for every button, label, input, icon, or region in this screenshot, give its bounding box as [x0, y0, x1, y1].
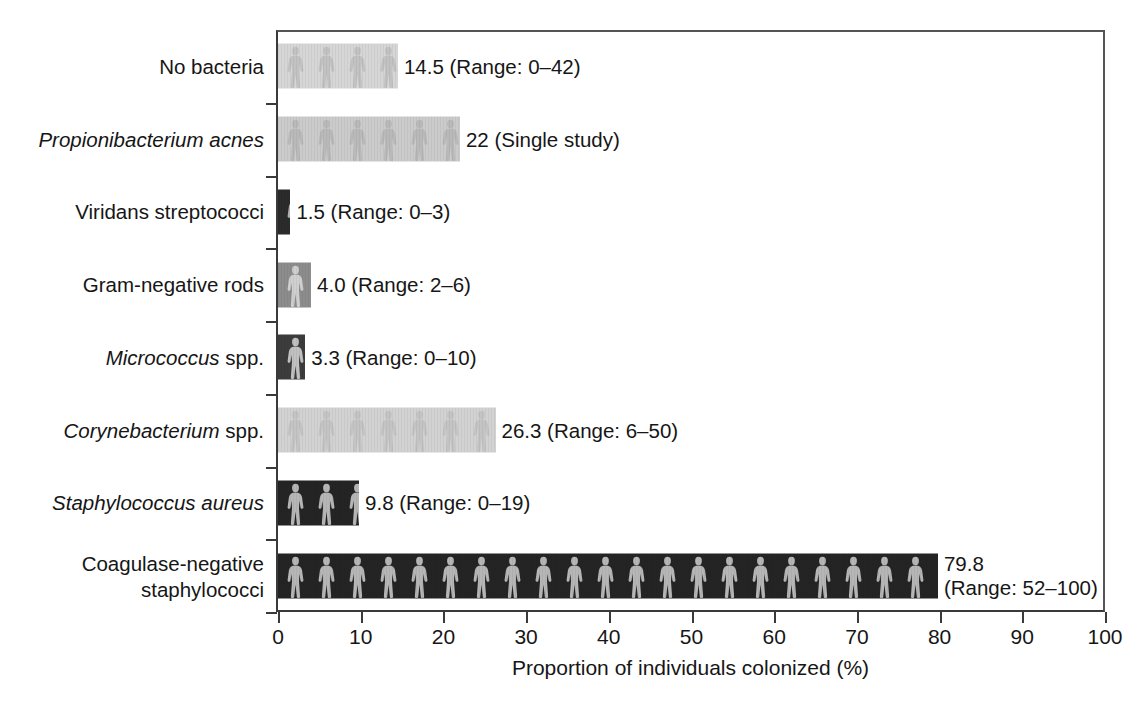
bar-and-label: 26.3 (Range: 6–50): [278, 408, 678, 453]
y-axis-tick: [266, 321, 277, 323]
x-axis-tick: [526, 612, 528, 623]
x-axis-tick-label: 50: [652, 625, 732, 649]
bar-row: Viridans streptococci1.5 (Range: 0–3): [0, 176, 1148, 249]
bar[interactable]: [278, 480, 359, 525]
bar-and-label: 22 (Single study): [278, 117, 620, 162]
bar-value-label: 14.5 (Range: 0–42): [404, 54, 581, 78]
x-axis-tick-label: 70: [817, 625, 897, 649]
bar[interactable]: [278, 408, 496, 453]
bar-texture: [278, 262, 311, 307]
bar-and-label: 79.8 (Range: 52–100): [278, 553, 1098, 598]
bar-row: No bacteria14.5 (Range: 0–42): [0, 30, 1148, 103]
x-axis-tick-label: 90: [982, 625, 1062, 649]
category-label: Corynebacterium spp.: [0, 418, 264, 443]
x-axis-tick-label: 10: [321, 625, 401, 649]
x-axis-tick-label: 30: [486, 625, 566, 649]
bar-and-label: 3.3 (Range: 0–10): [278, 335, 477, 380]
bar-texture: [278, 553, 938, 598]
bar-texture: [278, 335, 305, 380]
bar-value-label: 1.5 (Range: 0–3): [296, 200, 450, 224]
x-axis-tick: [361, 612, 363, 623]
x-axis-tick-label: 40: [569, 625, 649, 649]
bar-value-label: 22 (Single study): [466, 127, 620, 151]
category-label: Gram-negative rods: [0, 272, 264, 297]
bar-texture: [278, 44, 398, 89]
bar-value-label: 4.0 (Range: 2–6): [317, 273, 471, 297]
x-axis-tick: [1022, 612, 1024, 623]
bar[interactable]: [278, 189, 290, 234]
bar[interactable]: [278, 553, 938, 598]
y-axis-tick: [266, 467, 277, 469]
y-axis-tick: [266, 248, 277, 250]
bar-row: Staphylococcus aureus9.8 (Range: 0–19): [0, 467, 1148, 540]
bar-chart: No bacteria14.5 (Range: 0–42)Propionibac…: [0, 0, 1148, 702]
y-axis-tick: [266, 176, 277, 178]
x-axis-tick: [609, 612, 611, 623]
bar-row: Corynebacterium spp.26.3 (Range: 6–50): [0, 394, 1148, 467]
category-label: Staphylococcus aureus: [0, 490, 264, 515]
y-axis-tick: [266, 612, 277, 614]
bar-and-label: 1.5 (Range: 0–3): [278, 189, 450, 234]
bar-row: Micrococcus spp.3.3 (Range: 0–10): [0, 321, 1148, 394]
bar-value-label: 79.8 (Range: 52–100): [944, 552, 1098, 600]
bar-value-label: 3.3 (Range: 0–10): [311, 345, 476, 369]
y-axis-tick: [266, 394, 277, 396]
bar-and-label: 9.8 (Range: 0–19): [278, 480, 530, 525]
bar[interactable]: [278, 335, 305, 380]
x-axis-tick: [774, 612, 776, 623]
x-axis-tick-label: 20: [403, 625, 483, 649]
bar-texture: [278, 189, 290, 234]
bar-texture: [278, 480, 359, 525]
bar-and-label: 14.5 (Range: 0–42): [278, 44, 581, 89]
x-axis-tick: [1105, 612, 1107, 623]
x-axis-tick: [857, 612, 859, 623]
x-axis-tick-label: 100: [1065, 625, 1145, 649]
category-label: No bacteria: [0, 54, 264, 79]
x-axis-tick: [940, 612, 942, 623]
bar-row: Propionibacterium acnes22 (Single study): [0, 103, 1148, 176]
category-label: Coagulase-negative staphylococci: [0, 551, 264, 603]
bar-value-label: 26.3 (Range: 6–50): [502, 418, 679, 442]
x-axis-tick-label: 60: [734, 625, 814, 649]
bar-texture: [278, 117, 460, 162]
y-axis-tick: [266, 539, 277, 541]
bar-value-label: 9.8 (Range: 0–19): [365, 491, 530, 515]
bar[interactable]: [278, 117, 460, 162]
y-axis-tick: [266, 103, 277, 105]
bar[interactable]: [278, 262, 311, 307]
category-label: Micrococcus spp.: [0, 345, 264, 370]
x-axis-tick: [443, 612, 445, 623]
bar-and-label: 4.0 (Range: 2–6): [278, 262, 471, 307]
bar-row: Coagulase-negative staphylococci79.8 (Ra…: [0, 539, 1148, 612]
x-axis-tick-label: 0: [238, 625, 318, 649]
x-axis-tick-label: 80: [900, 625, 980, 649]
x-axis-title: Proportion of individuals colonized (%): [276, 656, 1105, 680]
x-axis-tick: [692, 612, 694, 623]
x-axis-tick: [278, 612, 280, 623]
category-label: Propionibacterium acnes: [0, 127, 264, 152]
bar[interactable]: [278, 44, 398, 89]
category-label: Viridans streptococci: [0, 199, 264, 224]
bar-texture: [278, 408, 496, 453]
bar-row: Gram-negative rods4.0 (Range: 2–6): [0, 248, 1148, 321]
